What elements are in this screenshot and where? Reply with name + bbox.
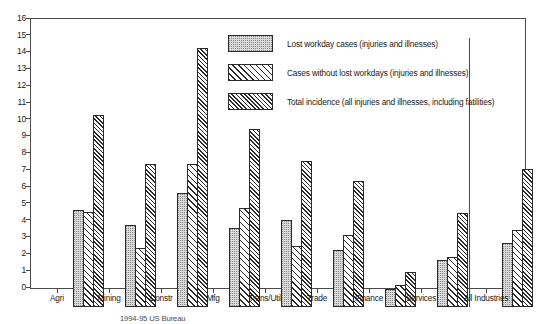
legend-swatch [228,93,273,110]
legend-swatch [228,35,273,52]
legend: Lost workday cases (injuries and illness… [228,33,528,120]
legend-swatch [228,64,273,81]
bar-group [62,38,114,307]
legend-label: Total incidence (all injuries and illnes… [287,97,494,107]
bar-group [114,38,166,307]
plot-area-frame: Lost workday cases (injuries and illness… [30,18,526,289]
bar[interactable] [197,48,208,307]
bar[interactable] [93,115,104,307]
bar[interactable] [249,129,260,307]
legend-item[interactable]: Total incidence (all injuries and illnes… [228,91,528,112]
bar-chart-figure: 012345678910111213141516 Lost workday ca… [0,0,548,324]
bar[interactable] [301,161,312,307]
bar[interactable] [353,181,364,307]
x-axis-labels: AgriMiningConstrMfgTrans/UtilTradeFinanc… [31,293,525,309]
bar[interactable] [522,169,533,307]
legend-item[interactable]: Cases without lost workdays (injuries an… [228,62,528,83]
legend-label: Lost workday cases (injuries and illness… [287,39,438,49]
legend-label: Cases without lost workdays (injuries an… [287,68,468,78]
x-axis-label: All Industries [446,293,526,303]
legend-item[interactable]: Lost workday cases (injuries and illness… [228,33,528,54]
figure-caption: 1994-95 US Bureau [120,313,540,324]
y-axis: 012345678910111213141516 [0,18,30,289]
bar[interactable] [145,164,156,307]
bar-group [166,38,218,307]
